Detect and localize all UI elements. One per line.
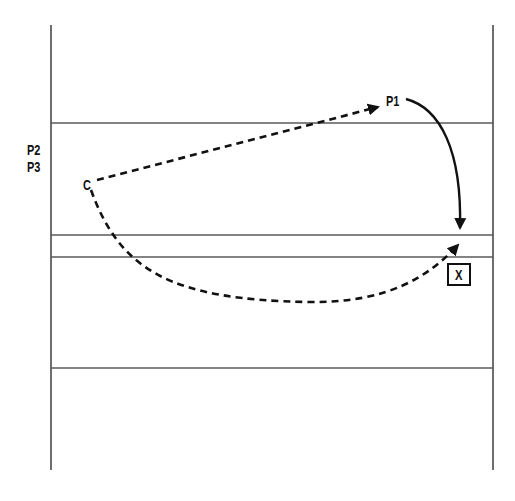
diagram-canvas xyxy=(0,0,515,501)
label-p3: P3 xyxy=(27,160,40,174)
label-p2: P2 xyxy=(27,143,40,157)
dashed-arrow-c-to-target xyxy=(91,190,458,302)
solid-arrow-p1-to-target xyxy=(406,99,460,228)
target-x-box: X xyxy=(447,263,471,286)
dashed-arrow-c-to-p1 xyxy=(97,107,378,180)
target-x-label: X xyxy=(455,267,462,283)
label-c: C xyxy=(83,178,91,192)
label-p1: P1 xyxy=(386,94,399,108)
